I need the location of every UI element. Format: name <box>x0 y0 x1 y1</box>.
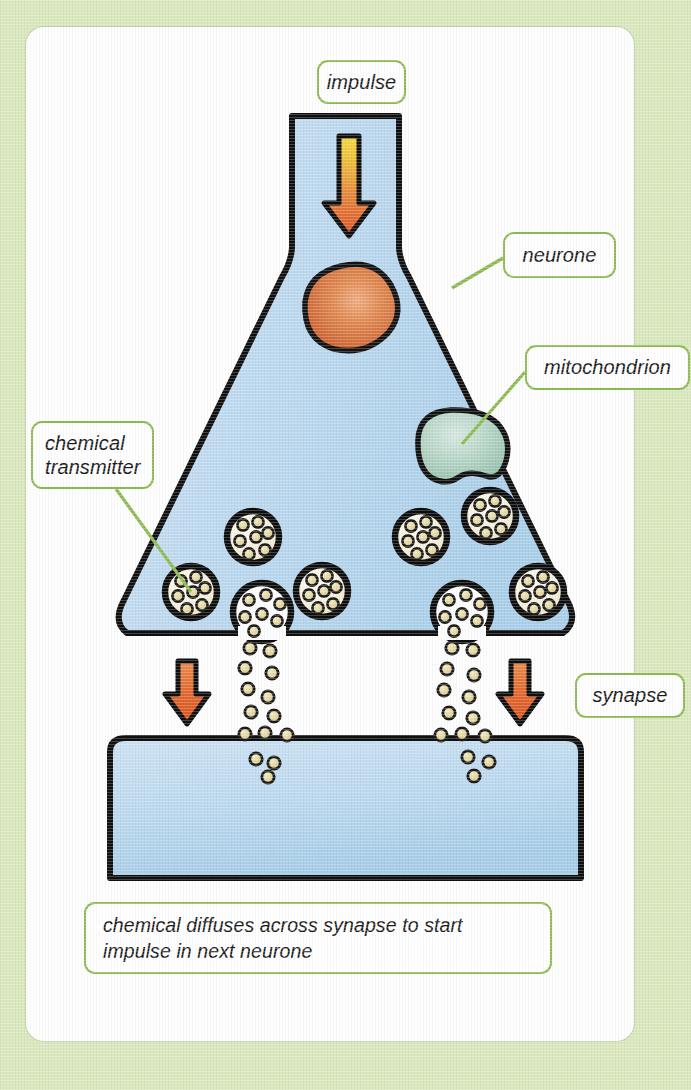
lower-neurone <box>110 738 581 878</box>
label-chemical-transmitter: chemical transmitter <box>31 421 154 489</box>
diffusion-arrow-right <box>498 661 542 724</box>
vesicle <box>464 490 516 542</box>
label-mitochondrion: mitochondrion <box>525 345 690 390</box>
fusing-vesicle-right <box>433 583 491 641</box>
nucleus <box>305 264 398 350</box>
fusing-vesicle-left <box>233 583 291 641</box>
diffusion-arrow-left <box>165 661 209 724</box>
label-neurone: neurone <box>503 232 616 278</box>
diagram-canvas: impulse neurone mitochondrion chemical t… <box>0 0 691 1090</box>
leader-line-neurone <box>452 258 503 288</box>
vesicle <box>512 566 564 618</box>
vesicle <box>227 511 279 563</box>
vesicle <box>296 565 348 617</box>
vesicle <box>395 511 447 563</box>
label-synapse: synapse <box>575 673 685 718</box>
caption-text: chemical diffuses across synapse to star… <box>84 902 552 974</box>
mitochondrion-organelle <box>418 410 508 482</box>
label-impulse: impulse <box>317 60 406 104</box>
